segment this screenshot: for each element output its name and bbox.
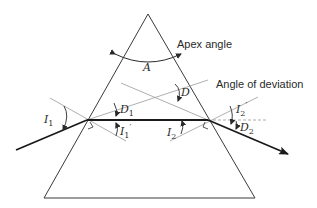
- angle-D-arc: [175, 84, 179, 101]
- angle-D2-arc: [236, 121, 237, 129]
- angle-D2-label: D2: [239, 121, 254, 136]
- angle-I1-prime-arc: [116, 123, 118, 136]
- apex-angle-symbol: A: [142, 61, 151, 74]
- angle-D1-arc: [114, 103, 117, 116]
- angle-I1-label: I1: [43, 113, 53, 128]
- angle-I1-arc: [63, 106, 67, 130]
- emergent-extension: [121, 83, 208, 120]
- apex-angle-label: Apex angle: [177, 38, 232, 50]
- incident-extension: [87, 80, 208, 120]
- angle-D-label: D: [180, 86, 190, 99]
- angle-I2-arc: [181, 121, 183, 134]
- prism-diagram: A Apex angle I1 D1 I1′ D Angle of deviat…: [0, 0, 317, 208]
- entry-right-angle-marker: [88, 122, 93, 129]
- angle-I1-prime-label: I1′: [119, 122, 131, 140]
- angle-I2-label: I2: [166, 126, 176, 141]
- angle-of-deviation-label: Angle of deviation: [216, 78, 303, 90]
- angle-I2-prime-arc: [230, 106, 232, 124]
- angle-I2-prime-label: I2′: [235, 100, 247, 118]
